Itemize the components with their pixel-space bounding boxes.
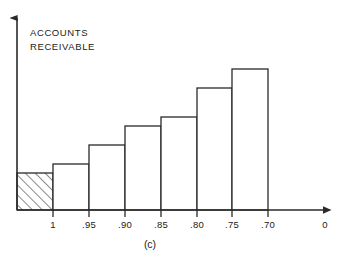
tick-label-3: .85 xyxy=(154,219,168,230)
bar-3 xyxy=(89,145,125,210)
bar-1-hatched xyxy=(17,173,53,210)
figure-container: 1 .95 .90 .85 .80 .75 .70 0 ACCOUNTS REC… xyxy=(0,0,341,260)
tick-label-4: .80 xyxy=(190,219,204,230)
figure-caption: (c) xyxy=(144,238,156,250)
tick-label-1: .95 xyxy=(82,219,96,230)
bar-6 xyxy=(197,88,232,210)
bar-4 xyxy=(125,126,161,210)
accounts-receivable-bar-chart: 1 .95 .90 .85 .80 .75 .70 0 ACCOUNTS REC… xyxy=(0,0,341,260)
series-label-line-1: ACCOUNTS xyxy=(30,27,88,38)
bar-7 xyxy=(232,69,268,210)
tick-label-7-zero: 0 xyxy=(322,219,328,230)
tick-label-2: .90 xyxy=(118,219,132,230)
bar-5 xyxy=(161,117,197,210)
series-label-line-2: RECEIVABLE xyxy=(30,41,95,52)
bar-2 xyxy=(53,164,89,210)
tick-label-0: 1 xyxy=(50,219,56,230)
tick-label-6: .70 xyxy=(261,219,275,230)
tick-label-5: .75 xyxy=(225,219,239,230)
